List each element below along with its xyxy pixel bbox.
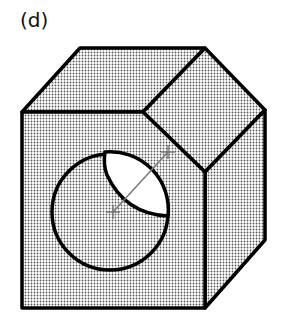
chamfered-cube-diagram <box>0 0 282 320</box>
